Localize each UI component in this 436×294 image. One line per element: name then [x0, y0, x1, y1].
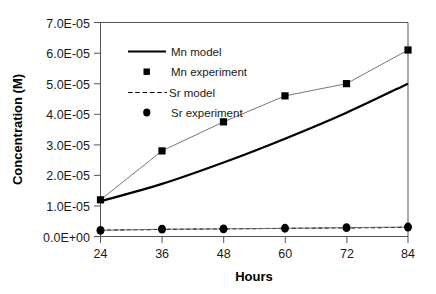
data-point-marker-square	[97, 196, 104, 203]
plot-frame	[100, 23, 408, 237]
chart-figure: 7.0E-05 6.0E-05 5.0E-05 4.0E-05 3.0E-05 …	[0, 0, 436, 294]
legend-label-sr-experiment: Sr experiment	[171, 107, 243, 119]
y-tick-label: 5.0E-05	[46, 78, 90, 92]
data-point-marker-circle	[220, 224, 228, 233]
y-tick-label: 4.0E-05	[46, 108, 90, 122]
y-axis-tick-labels: 7.0E-05 6.0E-05 5.0E-05 4.0E-05 3.0E-05 …	[43, 17, 90, 245]
x-tick-label: 84	[401, 247, 415, 261]
data-point-marker-circle	[158, 225, 166, 234]
x-tick-label: 24	[94, 247, 108, 261]
y-tick-label: 1.0E-05	[46, 200, 90, 214]
x-tick-label: 36	[155, 247, 169, 261]
data-point-marker-square	[281, 92, 288, 99]
y-axis-ticks	[94, 23, 100, 237]
legend-swatch-circle-icon	[143, 108, 150, 116]
series-line-sr-experiment	[101, 227, 409, 230]
data-point-marker-circle	[281, 224, 289, 233]
y-tick-label: 6.0E-05	[46, 47, 90, 61]
data-point-marker-square	[220, 118, 227, 125]
data-point-marker-circle	[343, 223, 351, 232]
data-point-marker-square	[158, 147, 165, 154]
x-axis-tick-labels: 24 36 48 60 72 84	[94, 247, 415, 261]
y-tick-label: 0.0E+00	[43, 231, 90, 245]
y-tick-label: 2.0E-05	[46, 169, 90, 183]
x-tick-label: 48	[217, 247, 231, 261]
legend-label-mn-model: Mn model	[171, 46, 222, 58]
y-tick-label: 7.0E-05	[46, 17, 90, 31]
chart-plot-area: 7.0E-05 6.0E-05 5.0E-05 4.0E-05 3.0E-05 …	[0, 0, 436, 294]
x-axis-ticks	[101, 237, 409, 244]
x-axis-title: Hours	[235, 269, 273, 284]
data-point-marker-square	[404, 46, 411, 53]
y-tick-label: 3.0E-05	[46, 139, 90, 153]
series-line-mn-model	[101, 84, 409, 202]
legend-label-mn-experiment: Mn experiment	[171, 66, 248, 78]
legend-swatch-square-icon	[144, 69, 150, 75]
data-point-marker-circle	[404, 223, 412, 232]
data-point-marker-square	[343, 80, 350, 87]
legend-label-sr-model: Sr model	[169, 87, 215, 99]
chart-legend: Mn model Mn experiment Sr model Sr exper…	[128, 46, 248, 119]
x-tick-label: 72	[340, 247, 354, 261]
data-point-marker-circle	[97, 226, 105, 235]
y-axis-title: Concentration (M)	[10, 74, 25, 185]
x-tick-label: 60	[278, 247, 292, 261]
